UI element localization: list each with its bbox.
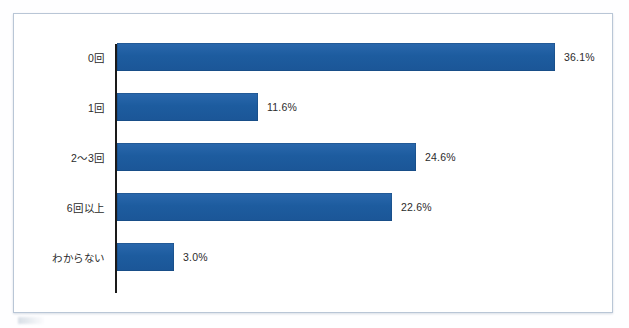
bar-3[interactable] bbox=[117, 193, 392, 221]
bar-group-0: 36.1% bbox=[117, 32, 595, 82]
bar-group-3: 22.6% bbox=[117, 182, 432, 232]
bar-row: 2〜3回 24.6% bbox=[14, 132, 614, 182]
figure-canvas: 0回 36.1% 1回 11.6% 2〜3回 24.6% bbox=[0, 0, 629, 328]
category-label-4: わからない bbox=[0, 250, 105, 265]
category-label-3: 6回以上 bbox=[0, 200, 105, 215]
bar-group-2: 24.6% bbox=[117, 132, 456, 182]
bar-row: 0回 36.1% bbox=[14, 32, 614, 82]
bar-row: 1回 11.6% bbox=[14, 82, 614, 132]
value-label-4: 3.0% bbox=[183, 251, 208, 263]
category-label-1: 1回 bbox=[0, 100, 105, 115]
bar-0[interactable] bbox=[117, 43, 555, 71]
bar-1[interactable] bbox=[117, 93, 258, 121]
bar-4[interactable] bbox=[117, 243, 174, 271]
chart-frame: 0回 36.1% 1回 11.6% 2〜3回 24.6% bbox=[13, 13, 613, 313]
bar-group-1: 11.6% bbox=[117, 82, 297, 132]
bar-2[interactable] bbox=[117, 143, 416, 171]
plot-area: 0回 36.1% 1回 11.6% 2〜3回 24.6% bbox=[14, 14, 614, 314]
bar-group-4: 3.0% bbox=[117, 232, 208, 282]
value-label-1: 11.6% bbox=[267, 101, 297, 113]
category-label-2: 2〜3回 bbox=[0, 150, 105, 165]
bar-row: 6回以上 22.6% bbox=[14, 182, 614, 232]
scan-artifact bbox=[18, 317, 44, 324]
bar-row: わからない 3.0% bbox=[14, 232, 614, 282]
value-label-2: 24.6% bbox=[425, 151, 456, 163]
value-label-3: 22.6% bbox=[401, 201, 432, 213]
value-label-0: 36.1% bbox=[564, 51, 595, 63]
category-label-0: 0回 bbox=[0, 50, 105, 65]
